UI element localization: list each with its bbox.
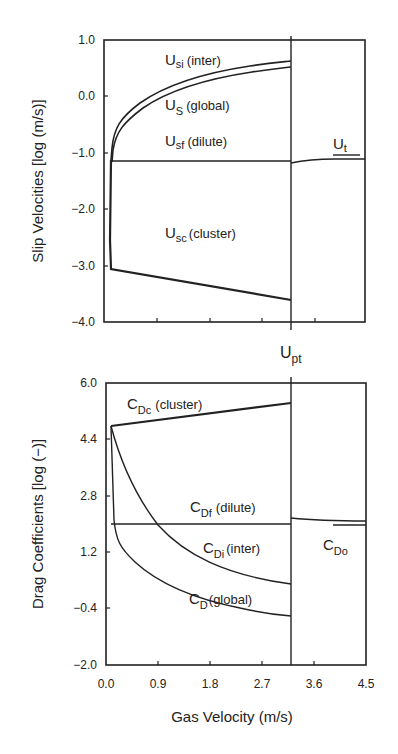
ut-curve [291,159,365,163]
top-ytick-label: −1.0 [71,146,95,160]
usf-dilute-label: Usf(dilute) [165,132,227,151]
us-global-label: US(global) [165,96,230,117]
ut-label: Ut [333,135,347,154]
top-y-axis-label: Slip Velocities [log (m/s)] [29,99,46,262]
figure: 1.0 0.0 −1.0 −2.0 −3.0 −4.0 Slip Velocit… [0,0,398,754]
cd-global-curve [111,426,291,616]
bottom-xtick-label: 0.9 [150,677,167,691]
cdi-inter-label: CDi(inter) [203,539,260,560]
bottom-xtick-label: 4.5 [358,677,375,691]
x-axis-label: Gas Velocity (m/s) [171,708,293,725]
upt-label: Upt [280,344,302,366]
cd-global-label: CD(global) [189,590,252,611]
bottom-ytick-label: −0.4 [73,601,97,615]
bottom-ytick-label: 6.0 [80,376,97,390]
bottom-xtick-label: 3.6 [306,677,323,691]
usc-cluster-label: Usc(cluster) [165,224,236,244]
cdf-dilute-label: CDf(dilute) [190,498,256,519]
bottom-plot: 6.0 4.4 2.8 1.2 −0.4 −2.0 0.0 0.9 1.8 2.… [29,376,375,725]
top-ytick-label: −3.0 [71,259,95,273]
top-ytick-label: 0.0 [78,89,95,103]
top-ytick-label: 1.0 [78,33,95,47]
bottom-xtick-label: 0.0 [98,677,115,691]
bottom-xtick-label: 1.8 [202,677,219,691]
usi-inter-label: Usi(inter) [165,51,221,70]
bottom-xtick-label: 2.7 [254,677,271,691]
top-ytick-label: −4.0 [71,315,95,329]
bottom-ytick-label: −2.0 [73,658,97,672]
top-ytick-label: −2.0 [71,202,95,216]
top-plot: 1.0 0.0 −1.0 −2.0 −3.0 −4.0 Slip Velocit… [29,33,365,366]
bottom-ytick-label: 1.2 [80,545,97,559]
cdi-inter-curve [111,426,291,584]
cdo-curve [291,518,366,521]
top-curves [110,61,365,300]
bottom-y-axis-label: Drag Coefficients [log (−)] [29,439,46,609]
bottom-ytick-label: 2.8 [80,489,97,503]
top-plot-frame [104,40,365,322]
cdo-label: CDo [323,536,348,557]
bottom-ytick-label: 4.4 [80,432,97,446]
cdc-cluster-label: CDc(cluster) [127,395,202,416]
